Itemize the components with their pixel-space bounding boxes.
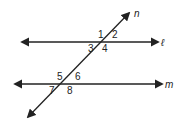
diagram-canvas: ℓ m n 1 2 3 4 5 6 7 8	[0, 0, 182, 130]
angle-6-label: 6	[75, 71, 81, 82]
line-n-label: n	[134, 8, 140, 19]
angle-7-label: 7	[49, 85, 55, 96]
line-m-label: m	[165, 79, 173, 90]
angle-3-label: 3	[88, 43, 94, 54]
angle-4-label: 4	[102, 43, 108, 54]
parallel-lines-diagram: ℓ m n 1 2 3 4 5 6 7 8	[0, 0, 182, 130]
angle-2-label: 2	[112, 29, 118, 40]
angle-8-label: 8	[67, 85, 73, 96]
line-l-label: ℓ	[160, 37, 165, 48]
angle-5-label: 5	[57, 71, 63, 82]
angle-1-label: 1	[98, 29, 104, 40]
